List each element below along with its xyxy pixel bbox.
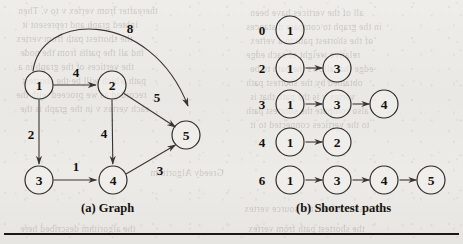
- path-distance-label: 6: [259, 173, 266, 188]
- caption-panel-a: (a) Graph: [81, 201, 134, 216]
- edge-weight-1-3: 2: [28, 127, 35, 142]
- graph-edge-weights-group: 4 2 8 4 5 1 3: [28, 21, 164, 178]
- path-distance-label: 3: [259, 97, 266, 112]
- path-node[interactable]: 3: [323, 90, 351, 118]
- graph-node-1[interactable]: 1: [25, 71, 53, 99]
- shortest-path-row: 01: [259, 16, 304, 44]
- edge-weight-2-5: 5: [154, 90, 161, 105]
- shortest-path-row: 213: [259, 54, 351, 82]
- path-distance-label: 4: [259, 135, 266, 150]
- edge-2-5: [124, 94, 176, 128]
- path-node[interactable]: 1: [276, 166, 304, 194]
- bottom-horizontal-rule: [4, 233, 459, 235]
- graph-node-3[interactable]: 3: [25, 166, 53, 194]
- path-node-label: 1: [287, 97, 294, 112]
- graph-edges-group: [33, 29, 188, 180]
- edge-weight-2-4: 4: [101, 126, 108, 141]
- edge-weight-1-5: 8: [127, 21, 134, 36]
- caption-panel-b: (b) Shortest paths: [296, 201, 391, 216]
- path-node[interactable]: 2: [323, 128, 351, 156]
- path-distance-label: 0: [259, 23, 266, 38]
- shortest-path-row: 412: [259, 128, 351, 156]
- path-node-label: 3: [334, 173, 341, 188]
- shortest-path-row: 3134: [259, 90, 398, 118]
- path-node[interactable]: 1: [276, 54, 304, 82]
- path-node-label: 1: [287, 173, 294, 188]
- path-node-label: 1: [287, 23, 294, 38]
- path-node[interactable]: 1: [276, 90, 304, 118]
- graph-node-2-label: 2: [109, 78, 116, 93]
- path-node[interactable]: 4: [370, 90, 398, 118]
- path-node-label: 2: [334, 135, 341, 150]
- graph-node-1-label: 1: [36, 78, 43, 93]
- graph-node-5[interactable]: 5: [172, 121, 200, 149]
- graph-node-5-label: 5: [183, 128, 190, 143]
- path-node[interactable]: 3: [323, 54, 351, 82]
- figure-page: thereafter from vertex v to v. Thenighte…: [0, 0, 463, 244]
- graph-node-4[interactable]: 4: [99, 166, 127, 194]
- path-node-label: 5: [428, 173, 435, 188]
- graph-node-4-label: 4: [110, 173, 117, 188]
- path-node-label: 3: [334, 61, 341, 76]
- edge-4-5: [126, 145, 176, 174]
- path-node[interactable]: 1: [276, 16, 304, 44]
- path-node[interactable]: 3: [323, 166, 351, 194]
- path-node-label: 4: [381, 97, 388, 112]
- path-node-label: 1: [287, 135, 294, 150]
- path-node-label: 3: [334, 97, 341, 112]
- edge-weight-3-4: 1: [73, 159, 80, 174]
- graph-node-3-label: 3: [36, 173, 43, 188]
- edge-2-4: [112, 100, 113, 165]
- path-distance-label: 2: [259, 61, 266, 76]
- shortest-paths-group: 01213313441261345: [259, 16, 445, 194]
- path-node-label: 1: [287, 61, 294, 76]
- path-node[interactable]: 4: [370, 166, 398, 194]
- figure-svg: 4 2 8 4 5 1 3 1 2 3 4: [0, 0, 463, 244]
- shortest-path-row: 61345: [259, 166, 445, 194]
- graph-node-2[interactable]: 2: [98, 71, 126, 99]
- edge-weight-1-2: 4: [73, 65, 80, 80]
- path-node[interactable]: 5: [417, 166, 445, 194]
- path-node[interactable]: 1: [276, 128, 304, 156]
- edge-weight-4-5: 3: [157, 163, 164, 178]
- path-node-label: 4: [381, 173, 388, 188]
